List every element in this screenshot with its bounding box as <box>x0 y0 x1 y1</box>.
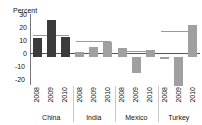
bar-turkey-2010 <box>188 25 197 56</box>
x-tick-china-2008: 2008 <box>33 87 40 103</box>
bar-mexico-2008 <box>118 48 127 57</box>
bar-china-2010 <box>61 37 70 57</box>
bar-mexico-2009 <box>132 57 141 73</box>
x-tick-turkey-2009: 2009 <box>175 87 182 103</box>
y-tick-30: 30 <box>11 11 27 18</box>
bar-turkey-2008 <box>160 57 169 59</box>
bar-mexico-2010 <box>146 50 155 56</box>
bar-india-2010 <box>103 42 112 57</box>
group-separator <box>115 86 116 122</box>
x-tick-india-2008: 2008 <box>76 87 83 103</box>
bar-turkey-2009 <box>174 57 183 86</box>
group-label-mexico: Mexico <box>115 114 158 121</box>
y-axis-line <box>30 14 31 85</box>
y-tick-0: 0 <box>11 50 27 57</box>
x-tick-mexico-2008: 2008 <box>118 87 125 103</box>
x-tick-mexico-2009: 2009 <box>132 87 139 103</box>
y-tick-10: 10 <box>11 37 27 44</box>
x-tick-india-2010: 2010 <box>104 87 111 103</box>
group-separator <box>158 86 159 122</box>
group-label-india: India <box>73 114 116 121</box>
x-tick-china-2009: 2009 <box>47 87 54 103</box>
y-tick-20: 20 <box>11 24 27 31</box>
group-label-china: China <box>30 114 73 121</box>
y-tick-neg10: -10 <box>9 63 25 70</box>
bar-india-2009 <box>89 47 98 57</box>
x-tick-mexico-2010: 2010 <box>146 87 153 103</box>
x-axis-area: 200820092010China200820092010India200820… <box>30 86 200 125</box>
grouped-bar-chart: Percent 30 20 10 0 -10 -20 200820092010C… <box>0 0 202 125</box>
bar-china-2009 <box>47 20 56 57</box>
x-tick-china-2010: 2010 <box>61 87 68 103</box>
group-label-turkey: Turkey <box>158 114 201 121</box>
y-tick-neg20: -20 <box>9 76 25 83</box>
plot-area <box>30 14 200 85</box>
x-tick-turkey-2008: 2008 <box>161 87 168 103</box>
bar-india-2008 <box>75 52 84 56</box>
bar-china-2008 <box>33 38 42 56</box>
x-tick-india-2009: 2009 <box>90 87 97 103</box>
group-separator <box>73 86 74 122</box>
x-tick-turkey-2010: 2010 <box>189 87 196 103</box>
